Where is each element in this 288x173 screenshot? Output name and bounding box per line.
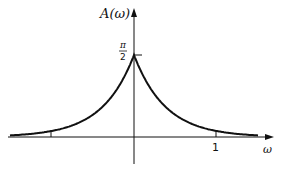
x-axis-arrow-icon <box>265 134 274 140</box>
y-axis-arrow-icon <box>131 8 137 17</box>
y-axis-label: A(ω) <box>99 6 130 21</box>
y-tick-numerator: π <box>119 40 127 50</box>
y-tick-denominator: 2 <box>120 52 126 62</box>
x-axis-label: ω <box>263 143 272 156</box>
x-tick-label-1: 1 <box>212 141 219 154</box>
chart: A(ω) π 2 1 ω <box>0 0 288 173</box>
